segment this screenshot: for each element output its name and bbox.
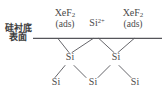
xef2-left-state: (ads) <box>44 20 86 30</box>
substrate-surface-caption: 硅衬底 表面 <box>2 24 34 43</box>
silicon-etching-schematic: 硅衬底 表面 XeF2 (ads) XeF2 (ads) Si2+ Si Si … <box>0 0 162 99</box>
lattice-atom-bottom-left: Si <box>47 77 65 88</box>
bond-surface-right-to-mid-right <box>118 39 134 53</box>
lattice-atom-mid-left-symbol: Si <box>66 51 74 62</box>
lattice-atom-bottom-right-symbol: Si <box>131 76 139 87</box>
xef2-right-formula: XeF2 <box>112 8 154 20</box>
substrate-caption-line-2: 表面 <box>2 33 34 42</box>
lattice-atom-bottom-right: Si <box>126 77 144 88</box>
adsorbate-label-xef2-right: XeF2 (ads) <box>112 8 154 30</box>
lattice-atom-mid-left: Si <box>61 52 79 63</box>
xef2-right-state: (ads) <box>112 20 154 30</box>
bond-mid-right-to-bot-center <box>98 66 110 78</box>
lattice-atom-bottom-center-symbol: Si <box>89 76 97 87</box>
lattice-atom-bottom-center: Si <box>84 77 102 88</box>
adsorbate-label-xef2-left: XeF2 (ads) <box>44 8 86 30</box>
bond-mid-left-to-bot-center <box>74 66 86 78</box>
bond-mid-right-to-bot-right <box>119 66 131 78</box>
silicon-ion-charge: 2+ <box>98 17 105 24</box>
lattice-atom-mid-right: Si <box>107 52 125 63</box>
silicon-ion-symbol: Si <box>89 17 97 28</box>
xef2-left-formula: XeF2 <box>44 8 86 20</box>
silicon-ion-label: Si2+ <box>82 18 112 29</box>
lattice-atom-mid-right-symbol: Si <box>112 51 120 62</box>
lattice-atom-bottom-left-symbol: Si <box>52 76 60 87</box>
bond-surface-center-to-mid-left <box>72 39 93 53</box>
